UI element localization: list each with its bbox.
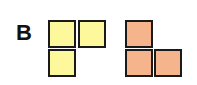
yellow-cell [48,49,76,77]
yellow-cell [48,20,76,48]
orange-cell [154,49,182,77]
orange-cell [125,20,153,48]
orange-cell [125,49,153,77]
yellow-cell [78,20,106,48]
figure-label: B [16,22,32,44]
